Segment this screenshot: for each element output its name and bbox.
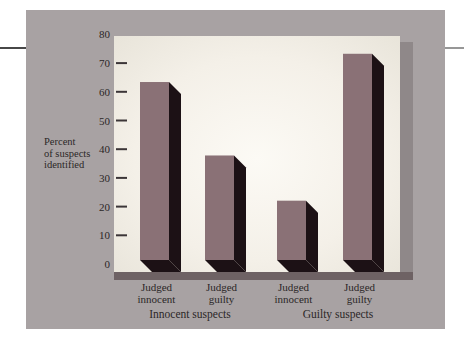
page-rule-line-left bbox=[0, 47, 26, 49]
x-category-label: Judgedguilty bbox=[206, 281, 238, 305]
y-tick-label: 80 bbox=[99, 28, 111, 40]
plot-shadow-right bbox=[400, 42, 413, 280]
bar-side-face bbox=[234, 155, 246, 272]
bar-chart: 01020304050607080JudgedinnocentJudgedgui… bbox=[26, 10, 445, 329]
x-category-label: Judgedinnocent bbox=[138, 281, 176, 305]
figure-panel: Percent of suspects identified 010203040… bbox=[26, 10, 445, 329]
x-category-label: Judgedinnocent bbox=[275, 281, 313, 305]
y-tick-label: 40 bbox=[99, 143, 111, 155]
y-tick-label: 50 bbox=[99, 115, 111, 127]
x-category-label: Judgedguilty bbox=[344, 281, 376, 305]
bar-side-face bbox=[169, 82, 181, 272]
x-group-label: Guilty suspects bbox=[303, 308, 374, 321]
y-tick-label: 70 bbox=[99, 57, 111, 69]
x-axis-floor bbox=[114, 272, 413, 280]
page: { "figure": { "ylabel": "Percent\nof sus… bbox=[0, 0, 464, 344]
bar-side-face bbox=[306, 201, 318, 272]
bar-front-face bbox=[140, 82, 169, 260]
y-tick-label: 60 bbox=[99, 86, 111, 98]
bar-side-face bbox=[372, 54, 384, 272]
y-tick-label: 10 bbox=[99, 229, 111, 241]
bar-front-face bbox=[277, 201, 306, 260]
bar-front-face bbox=[343, 54, 372, 260]
y-tick-label: 20 bbox=[99, 201, 111, 213]
x-group-label: Innocent suspects bbox=[149, 308, 231, 321]
bar-front-face bbox=[205, 155, 234, 260]
y-tick-label: 30 bbox=[99, 172, 111, 184]
page-rule-line-right bbox=[445, 47, 464, 49]
y-tick-label: 0 bbox=[105, 258, 111, 270]
